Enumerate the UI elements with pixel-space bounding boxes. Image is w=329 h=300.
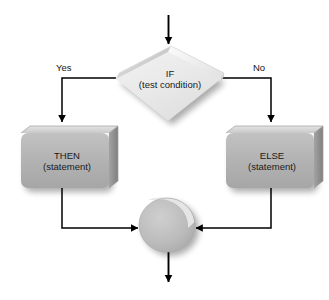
node-merge-connector[interactable] xyxy=(139,198,195,252)
no-branch-label: No xyxy=(253,62,265,73)
edge-yes-branch xyxy=(62,78,116,122)
node-if-decision[interactable] xyxy=(116,46,224,121)
edge-then-to-merge xyxy=(62,188,138,228)
node-then-process[interactable] xyxy=(21,126,118,188)
flowchart-canvas: IF (test condition) THEN (statement) ELS… xyxy=(0,0,329,300)
edge-else-to-merge xyxy=(196,188,271,228)
edge-no-branch xyxy=(221,78,271,122)
flowchart-graphics xyxy=(0,0,329,300)
yes-branch-label: Yes xyxy=(56,62,72,73)
node-else-process[interactable] xyxy=(226,126,323,188)
